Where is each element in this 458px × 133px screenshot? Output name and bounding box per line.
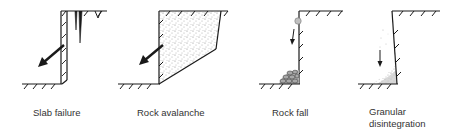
label-granular-line1: Granular bbox=[369, 106, 426, 118]
panel-rock-avalanche bbox=[118, 11, 228, 89]
panel-slab-failure bbox=[22, 11, 107, 89]
rubble-pile bbox=[279, 70, 299, 84]
panel-granular-disintegration bbox=[358, 11, 440, 89]
label-granular-line2: disintegration bbox=[369, 118, 426, 130]
label-granular-disintegration: Granular disintegration bbox=[369, 106, 426, 130]
label-rock-fall: Rock fall bbox=[272, 107, 308, 119]
panel-rock-fall bbox=[259, 11, 343, 89]
label-slab-failure: Slab failure bbox=[33, 107, 81, 119]
label-rock-avalanche: Rock avalanche bbox=[137, 107, 205, 119]
